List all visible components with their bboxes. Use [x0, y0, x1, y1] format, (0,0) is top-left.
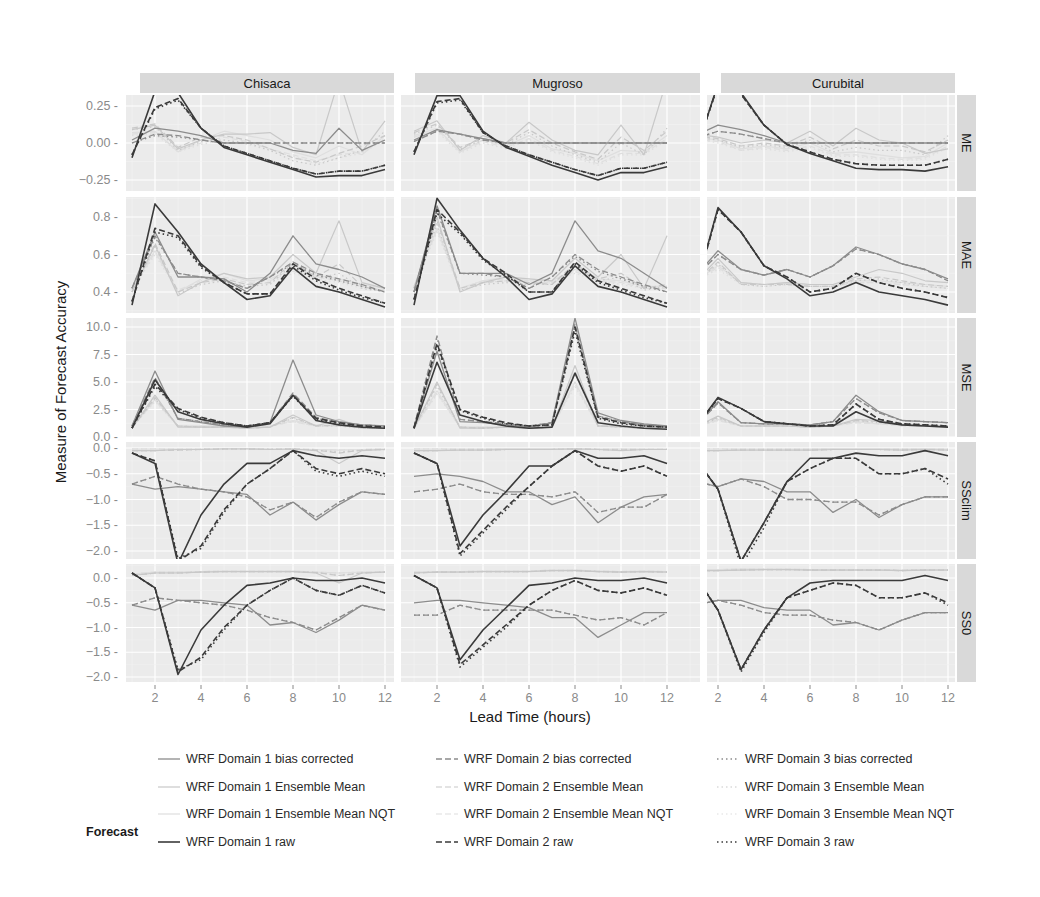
panel-chisaca-mae	[126, 197, 408, 313]
y-tick-label: −1.0 -	[86, 621, 118, 635]
panel-mugroso-ssclim	[401, 442, 700, 559]
panel-mugroso-mae	[401, 197, 700, 313]
y-tick-label: 0.0 -	[93, 571, 118, 585]
x-tick-label: 12	[660, 691, 674, 705]
legend-item: WRF Domain 1 bias corrected	[158, 752, 353, 766]
legend-title: Forecast	[86, 825, 139, 839]
column-strip-label: Curubital	[812, 76, 864, 91]
panel-curubital-mse	[695, 318, 971, 437]
x-axis-title: Lead Time (hours)	[469, 708, 591, 725]
panel-mugroso-me	[401, 79, 700, 191]
legend-item: WRF Domain 2 Ensemble Mean NQT	[436, 807, 673, 821]
panel-chisaca-me	[126, 79, 408, 191]
y-tick-label: 0.4 -	[93, 285, 118, 299]
legend-label: WRF Domain 2 Ensemble Mean	[464, 780, 643, 794]
panel-mugroso-mse	[401, 318, 700, 437]
x-tick-label: 2	[434, 691, 441, 705]
panel-chisaca-mse	[126, 318, 408, 437]
x-tick-label: 12	[941, 691, 955, 705]
faceted-line-chart: ChisacaMugrosoCurubital MEMAEMSESSclimSS…	[0, 0, 1040, 897]
row-strip-label: SS0	[959, 611, 974, 636]
y-tick-label: 7.5 -	[93, 348, 118, 362]
legend: Forecast WRF Domain 1 bias correctedWRF …	[86, 752, 954, 849]
legend-item: WRF Domain 1 raw	[158, 835, 296, 849]
y-tick-label: −0.5 -	[86, 467, 118, 481]
legend-label: WRF Domain 3 Ensemble Mean NQT	[745, 807, 954, 821]
legend-item: WRF Domain 2 Ensemble Mean	[436, 780, 643, 794]
legend-label: WRF Domain 1 raw	[186, 835, 296, 849]
y-tick-label: 0.25 -	[86, 99, 118, 113]
panel-curubital-mae	[695, 197, 971, 313]
y-tick-label: 0.00 -	[86, 136, 118, 150]
legend-label: WRF Domain 2 raw	[464, 835, 574, 849]
legend-item: WRF Domain 2 raw	[436, 835, 574, 849]
legend-entries: WRF Domain 1 bias correctedWRF Domain 2 …	[158, 752, 954, 849]
panel-curubital-ss0	[695, 564, 971, 682]
legend-label: WRF Domain 1 Ensemble Mean NQT	[186, 807, 395, 821]
row-strip-mae: MAE	[957, 197, 976, 313]
legend-label: WRF Domain 3 Ensemble Mean	[745, 780, 924, 794]
x-tick-label: 4	[198, 691, 205, 705]
legend-label: WRF Domain 2 bias corrected	[464, 752, 631, 766]
legend-item: WRF Domain 1 Ensemble Mean NQT	[158, 807, 395, 821]
x-tick-label: 8	[572, 691, 579, 705]
x-tick-label: 2	[152, 691, 159, 705]
panel-chisaca-ss0	[126, 564, 408, 682]
x-tick-label: 6	[244, 691, 251, 705]
column-strip-mugroso: Mugroso	[415, 73, 700, 93]
row-strips: MEMAEMSESSclimSS0	[957, 95, 976, 682]
legend-item: WRF Domain 2 bias corrected	[436, 752, 631, 766]
y-tick-label: −0.5 -	[86, 596, 118, 610]
x-tick-label: 12	[378, 691, 392, 705]
legend-label: WRF Domain 3 bias corrected	[745, 752, 912, 766]
y-tick-label: −1.0 -	[86, 493, 118, 507]
x-tick-label: 6	[526, 691, 533, 705]
x-axis-ticks: 246810122468101224681012	[152, 685, 955, 705]
row-strip-label: ME	[959, 133, 974, 153]
y-tick-label: −1.5 -	[86, 518, 118, 532]
y-tick-label: −2.0 -	[86, 670, 118, 684]
column-strip-label: Mugroso	[532, 76, 583, 91]
legend-label: WRF Domain 2 Ensemble Mean NQT	[464, 807, 673, 821]
column-strips: ChisacaMugrosoCurubital	[140, 73, 955, 93]
legend-item: WRF Domain 3 Ensemble Mean NQT	[717, 807, 954, 821]
y-tick-label: 10.0 -	[86, 320, 118, 334]
legend-label: WRF Domain 3 raw	[745, 835, 855, 849]
panel-curubital-ssclim	[695, 442, 971, 567]
legend-label: WRF Domain 1 bias corrected	[186, 752, 353, 766]
panel-curubital-me	[695, 84, 971, 191]
row-strip-ssclim: SSclim	[957, 442, 976, 559]
y-tick-label: −0.25 -	[79, 173, 118, 187]
panels-layer	[126, 79, 971, 682]
y-tick-label: 0.6 -	[93, 248, 118, 262]
legend-label: WRF Domain 1 Ensemble Mean	[186, 780, 365, 794]
row-strip-label: SSclim	[959, 480, 974, 520]
column-strip-label: Chisaca	[244, 76, 292, 91]
y-tick-label: 5.0 -	[93, 375, 118, 389]
y-axis-title: Measure of Forecast Accuracy	[52, 280, 69, 483]
x-tick-label: 10	[895, 691, 909, 705]
panel-mugroso-ss0	[401, 564, 700, 682]
x-tick-label: 6	[807, 691, 814, 705]
x-tick-label: 2	[715, 691, 722, 705]
y-tick-label: 0.8 -	[93, 210, 118, 224]
x-tick-label: 10	[332, 691, 346, 705]
x-tick-label: 8	[853, 691, 860, 705]
row-strip-me: ME	[957, 95, 976, 191]
row-strip-ss0: SS0	[957, 564, 976, 682]
x-tick-label: 8	[290, 691, 297, 705]
legend-item: WRF Domain 3 bias corrected	[717, 752, 912, 766]
x-tick-label: 10	[614, 691, 628, 705]
row-strip-label: MSE	[959, 363, 974, 392]
row-strip-mse: MSE	[957, 318, 976, 437]
row-strip-label: MAE	[959, 241, 974, 270]
panel-chisaca-ssclim	[126, 442, 408, 564]
y-axis-ticks: 0.25 -0.00 -−0.25 -0.8 -0.6 -0.4 -10.0 -…	[79, 99, 118, 684]
legend-item: WRF Domain 3 raw	[717, 835, 855, 849]
column-strip-curubital: Curubital	[721, 73, 955, 93]
legend-item: WRF Domain 3 Ensemble Mean	[717, 780, 924, 794]
x-tick-label: 4	[761, 691, 768, 705]
y-tick-label: 0.0 -	[93, 441, 118, 455]
y-tick-label: −1.5 -	[86, 645, 118, 659]
legend-item: WRF Domain 1 Ensemble Mean	[158, 780, 365, 794]
